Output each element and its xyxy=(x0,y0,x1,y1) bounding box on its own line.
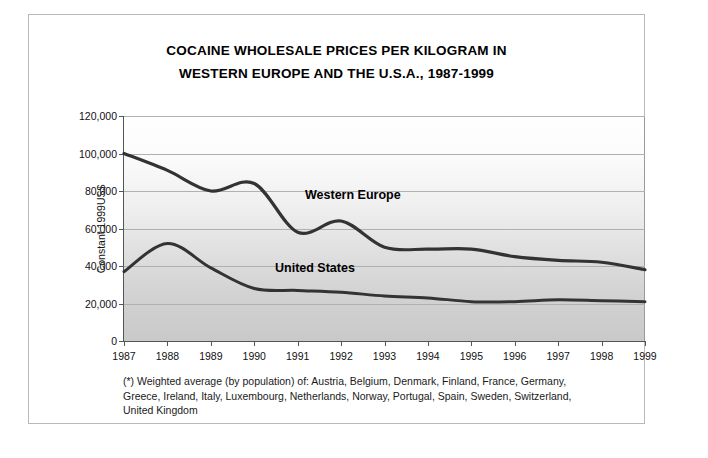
series-lines xyxy=(124,116,645,341)
chart-page: COCAINE WHOLESALE PRICES PER KILOGRAM IN… xyxy=(0,0,708,458)
y-tick-label: 20,000 xyxy=(85,298,117,310)
line-western-europe xyxy=(124,154,645,270)
series-label-western-europe: Western Europe xyxy=(305,188,401,202)
x-tick-mark xyxy=(602,341,603,346)
x-tick-label: 1996 xyxy=(503,350,526,362)
x-tick-mark xyxy=(385,341,386,346)
x-tick-label: 1993 xyxy=(373,350,396,362)
x-tick-mark xyxy=(428,341,429,346)
x-tick-label: 1992 xyxy=(329,350,352,362)
chart-title-line-1: COCAINE WHOLESALE PRICES PER KILOGRAM IN xyxy=(29,39,644,62)
series-label-united-states: United States xyxy=(275,261,355,275)
x-tick-mark xyxy=(558,341,559,346)
x-tick-mark xyxy=(515,341,516,346)
x-tick-label: 1991 xyxy=(286,350,309,362)
x-tick-mark xyxy=(471,341,472,346)
chart-title-line-2: WESTERN EUROPE AND THE U.S.A., 1987-1999 xyxy=(29,62,644,85)
x-tick-label: 1990 xyxy=(243,350,266,362)
x-tick-label: 1995 xyxy=(460,350,483,362)
line-united-states xyxy=(124,243,645,302)
x-tick-mark xyxy=(211,341,212,346)
footnote-line-1: (*) Weighted average (by population) of:… xyxy=(123,374,623,389)
y-tick-label: 120,000 xyxy=(79,110,117,122)
x-tick-mark xyxy=(167,341,168,346)
x-tick-mark xyxy=(298,341,299,346)
x-tick-mark xyxy=(645,341,646,346)
x-tick-label: 1989 xyxy=(199,350,222,362)
chart-title: COCAINE WHOLESALE PRICES PER KILOGRAM IN… xyxy=(29,39,644,85)
x-tick-mark xyxy=(124,341,125,346)
y-tick-label: 100,000 xyxy=(79,148,117,160)
plot-background: 020,00040,00060,00080,000100,000120,000 … xyxy=(123,116,645,342)
chart-card: COCAINE WHOLESALE PRICES PER KILOGRAM IN… xyxy=(28,14,645,424)
x-tick-label: 1988 xyxy=(156,350,179,362)
chart-plot-area: 020,00040,00060,00080,000100,000120,000 … xyxy=(123,116,644,341)
x-tick-label: 1997 xyxy=(546,350,569,362)
x-tick-mark xyxy=(341,341,342,346)
x-tick-label: 1999 xyxy=(633,350,656,362)
x-tick-label: 1994 xyxy=(416,350,439,362)
footnote-line-2: Greece, Ireland, Italy, Luxembourg, Neth… xyxy=(123,389,623,404)
footnote: (*) Weighted average (by population) of:… xyxy=(123,374,623,418)
x-tick-label: 1998 xyxy=(590,350,613,362)
y-tick-label: 0 xyxy=(111,335,117,347)
y-axis-label: Constant 1999US$ xyxy=(95,184,107,273)
footnote-line-3: United Kingdom xyxy=(123,403,623,418)
x-tick-mark xyxy=(254,341,255,346)
x-tick-label: 1987 xyxy=(112,350,135,362)
